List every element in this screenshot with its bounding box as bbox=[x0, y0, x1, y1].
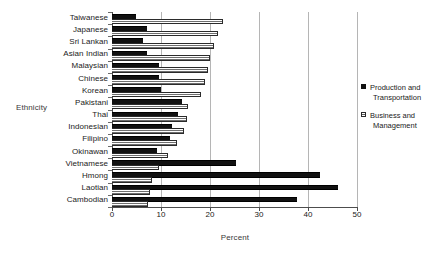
y-axis-tick bbox=[108, 158, 112, 159]
legend-item-production-and-transportation: Production and Transportation bbox=[361, 83, 442, 102]
x-axis-tick-label: 0 bbox=[97, 210, 127, 219]
y-axis-tick bbox=[108, 207, 112, 208]
y-axis-tick bbox=[108, 97, 112, 98]
x-axis-tick-label: 10 bbox=[146, 210, 176, 219]
legend-swatch-icon-production bbox=[361, 84, 366, 89]
bar-business bbox=[112, 165, 159, 171]
y-axis-tick bbox=[108, 24, 112, 25]
category-label: Indonesian bbox=[28, 122, 108, 131]
bar-business bbox=[112, 92, 201, 98]
category-label: Hmong bbox=[28, 171, 108, 180]
bar-business bbox=[112, 201, 148, 207]
y-axis-tick bbox=[108, 146, 112, 147]
legend-swatch-icon-business bbox=[361, 112, 366, 117]
category-label: Cambodian bbox=[28, 195, 108, 204]
y-axis-tick bbox=[108, 170, 112, 171]
category-label: Malaysian bbox=[28, 61, 108, 70]
bar-business bbox=[112, 79, 205, 85]
plot-area bbox=[112, 12, 357, 207]
legend-label-line2: Management bbox=[370, 121, 442, 131]
bar-business bbox=[112, 104, 188, 110]
legend-label-line2: Transportation bbox=[370, 93, 442, 103]
x-axis-line bbox=[112, 207, 358, 208]
y-axis-tick bbox=[108, 195, 112, 196]
x-axis-tick-label: 40 bbox=[293, 210, 323, 219]
category-label: Filipino bbox=[28, 134, 108, 143]
category-label: Laotian bbox=[28, 183, 108, 192]
category-axis-labels: TaiwaneseJapaneseSri LankanAsian IndianM… bbox=[28, 12, 108, 207]
bar-business bbox=[112, 140, 177, 146]
chart-legend: Production and Transportation Business a… bbox=[361, 83, 442, 139]
y-axis-tick bbox=[108, 85, 112, 86]
category-label: Japanese bbox=[28, 25, 108, 34]
x-axis-tick-label: 50 bbox=[342, 210, 372, 219]
x-axis-tick-labels: 01020304050 bbox=[112, 210, 362, 222]
bar-business bbox=[112, 128, 184, 134]
y-axis-tick bbox=[108, 36, 112, 37]
bar-business bbox=[112, 116, 187, 122]
category-label: Chinese bbox=[28, 74, 108, 83]
category-label: Okinawan bbox=[28, 147, 108, 156]
category-label: Taiwanese bbox=[28, 13, 108, 22]
category-label: Sri Lankan bbox=[28, 37, 108, 46]
y-axis-tick bbox=[108, 73, 112, 74]
bar-business bbox=[112, 31, 218, 37]
legend-label-line1: Business and bbox=[370, 111, 442, 121]
bar-business bbox=[112, 43, 214, 49]
y-axis-tick bbox=[108, 12, 112, 13]
bar-business bbox=[112, 189, 150, 195]
gridline bbox=[357, 12, 358, 207]
category-label: Asian Indian bbox=[28, 49, 108, 58]
bar-business bbox=[112, 67, 208, 73]
bar-chart: Ethnicity TaiwaneseJapaneseSri LankanAsi… bbox=[0, 0, 442, 259]
legend-item-business-and-management: Business and Management bbox=[361, 111, 442, 130]
category-label: Thai bbox=[28, 110, 108, 119]
y-axis-tick bbox=[108, 134, 112, 135]
category-label: Korean bbox=[28, 86, 108, 95]
x-axis-title: Percent bbox=[112, 233, 358, 242]
bar-business bbox=[112, 153, 168, 159]
legend-label-line1: Production and bbox=[370, 83, 442, 93]
bar-business bbox=[112, 177, 152, 183]
x-axis-tick-label: 30 bbox=[244, 210, 274, 219]
category-label: Pakistani bbox=[28, 98, 108, 107]
bar-business bbox=[112, 55, 210, 61]
x-axis-tick-label: 20 bbox=[195, 210, 225, 219]
bar-business bbox=[112, 19, 223, 25]
category-label: Vietnamese bbox=[28, 159, 108, 168]
